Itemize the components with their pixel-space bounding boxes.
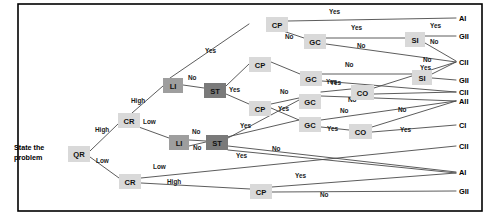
outcome-label: AI <box>459 168 466 177</box>
root-caption-line1: State the <box>14 143 44 152</box>
outcome-label: GII <box>459 187 469 196</box>
outcome-label: AI <box>459 14 466 23</box>
tree-node-gc[interactable]: GC <box>304 34 326 49</box>
tree-node-cr[interactable]: CR <box>118 113 140 128</box>
tree-edge <box>272 191 456 192</box>
node-label: CO <box>355 128 366 137</box>
node-label: QR <box>73 150 85 159</box>
edge-label: No <box>320 191 329 198</box>
tree-edge <box>228 150 456 173</box>
node-label: CP <box>256 188 267 197</box>
node-label: GC <box>304 98 316 107</box>
tree-node-cp[interactable]: CP <box>250 184 272 199</box>
node-label: GC <box>309 38 321 47</box>
edge-label: Yes <box>236 152 247 159</box>
edge-label: Yes <box>400 126 411 133</box>
edge-label: Yes <box>278 105 289 112</box>
node-label: CR <box>124 117 135 126</box>
edge-label: Low <box>143 118 156 125</box>
edge-label: No <box>280 88 289 95</box>
tree-node-st[interactable]: ST <box>206 135 228 150</box>
edge-label: No <box>398 106 407 113</box>
tree-edge <box>271 62 300 74</box>
tree-edge <box>183 85 204 88</box>
edge-label: No <box>188 74 197 81</box>
outcome-label: CII <box>459 58 468 67</box>
tree-node-cp[interactable]: CP <box>249 57 271 72</box>
tree-node-gc[interactable]: GC <box>299 117 321 132</box>
tree-node-qr[interactable]: QR <box>68 146 90 162</box>
node-label: CP <box>255 61 266 70</box>
outcome-label: AII <box>459 97 468 106</box>
tree-node-si[interactable]: SI <box>412 70 432 85</box>
node-label: CR <box>125 178 136 187</box>
decision-tree-diagram: HighLowHighLowNoYesYesNoNoYesNoYesLowHig… <box>0 0 494 221</box>
edge-label: Yes <box>351 24 362 31</box>
outcome-label: CII <box>459 88 468 97</box>
tree-node-li[interactable]: LI <box>163 78 183 93</box>
edge-label: No <box>430 38 439 45</box>
tree-edge <box>432 78 456 80</box>
node-label: CO <box>357 89 368 98</box>
tree-node-cp[interactable]: CP <box>249 101 271 116</box>
edge-label: No <box>272 145 281 152</box>
tree-node-co[interactable]: CO <box>351 85 374 100</box>
tree-canvas: HighLowHighLowNoYesYesNoNoYesNoYesLowHig… <box>0 0 494 221</box>
node-label: CP <box>272 21 283 30</box>
tree-edge <box>141 183 250 189</box>
root-caption-line2: problem <box>14 153 42 162</box>
edge-label: No <box>285 33 294 40</box>
tree-node-cp[interactable]: CP <box>266 17 288 32</box>
tree-node-cr[interactable]: CR <box>119 174 141 189</box>
tree-edge <box>226 94 249 104</box>
tree-edge <box>321 96 456 101</box>
tree-edge <box>372 125 456 132</box>
edge-label: No <box>340 107 349 114</box>
node-label: CP <box>255 105 266 114</box>
edge-label: Yes <box>205 47 216 54</box>
edge-label: Yes <box>326 78 337 85</box>
edge-label: No <box>423 56 432 63</box>
tree-node-st[interactable]: ST <box>204 83 226 98</box>
node-label: SI <box>411 36 418 45</box>
edge-label: No <box>357 42 366 49</box>
node-label: ST <box>212 139 222 148</box>
edge-label: Yes <box>327 125 338 132</box>
outcome-label: CI <box>459 121 466 130</box>
node-label: LI <box>170 82 177 91</box>
edge-label: High <box>131 97 145 105</box>
tree-edge <box>288 18 456 21</box>
tree-node-gc[interactable]: GC <box>299 94 321 109</box>
tree-node-co[interactable]: CO <box>349 124 372 139</box>
node-label: SI <box>418 74 425 83</box>
root-caption: State the problem <box>14 143 44 162</box>
tree-edge <box>321 89 351 92</box>
node-label: GC <box>304 121 316 130</box>
edge-label: Yes <box>329 8 340 15</box>
outcome-label: GII <box>459 32 469 41</box>
tree-node-si[interactable]: SI <box>405 32 425 47</box>
edge-label: Yes <box>240 122 251 129</box>
outcome-label: CII <box>459 142 468 151</box>
edge-label: High <box>95 126 109 134</box>
tree-edge <box>322 81 456 92</box>
edge-label: No <box>345 61 354 68</box>
node-label: ST <box>210 87 220 96</box>
tree-node-gc[interactable]: GC <box>300 71 322 86</box>
node-label: LI <box>176 139 183 148</box>
outcome-label: GII <box>459 76 469 85</box>
outcomes-layer: AIGIICIIGIICIIAIICICIIAIGII <box>459 14 469 196</box>
node-label: GC <box>305 75 317 84</box>
edge-label: Yes <box>229 86 240 93</box>
edge-label: Low <box>153 163 166 170</box>
tree-edge <box>372 101 456 127</box>
edge-label: Yes <box>295 172 306 179</box>
edge-label: No <box>193 144 202 151</box>
edge-label: Yes <box>420 64 431 71</box>
nodes-layer: QRCRCRLISTLISTCPGCSICPGCSICOCPGCGCCOCP <box>68 17 432 199</box>
edges-layer <box>90 18 456 192</box>
edge-label: No <box>192 128 201 135</box>
tree-node-li[interactable]: LI <box>169 135 189 150</box>
tree-edge <box>189 140 206 141</box>
tree-edge <box>326 44 456 62</box>
